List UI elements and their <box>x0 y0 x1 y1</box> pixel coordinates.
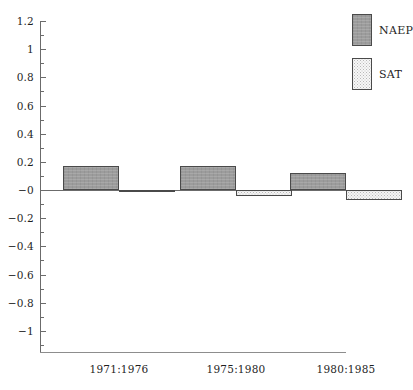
y-tick-label: −0.8 <box>0 298 34 309</box>
y-tick-label: 1 <box>0 44 34 55</box>
y-tick-minor <box>41 317 44 318</box>
y-tick-minor <box>41 232 44 233</box>
chart-legend: NAEP SAT <box>352 14 411 99</box>
y-tick-label: −1 <box>0 326 34 337</box>
y-tick-label: 0.8 <box>0 72 34 83</box>
y-tick-major <box>41 21 46 22</box>
legend-item-sat[interactable]: SAT <box>352 58 402 90</box>
y-tick-label: −0.2 <box>0 213 34 224</box>
y-tick-major <box>41 275 46 276</box>
y-tick-major <box>41 190 46 191</box>
x-axis-line <box>40 352 346 353</box>
zero-baseline <box>41 190 346 191</box>
y-tick-minor <box>41 204 44 205</box>
y-tick-minor <box>41 345 44 346</box>
y-tick-label: −0.4 <box>0 241 34 252</box>
legend-label-naep: NAEP <box>379 25 413 36</box>
y-tick-label: 0.4 <box>0 129 34 140</box>
legend-swatch-naep-icon <box>352 14 372 46</box>
y-tick-major <box>41 246 46 247</box>
bar-sat-1980-1985 <box>346 190 402 200</box>
y-tick-minor <box>41 260 44 261</box>
bar-sat-1975-1980 <box>236 190 292 196</box>
y-tick-minor <box>41 176 44 177</box>
legend-item-naep[interactable]: NAEP <box>352 14 413 46</box>
legend-swatch-sat-icon <box>352 58 372 90</box>
y-tick-label: −0.6 <box>0 270 34 281</box>
x-tick-label-1975-1980: 1975:1980 <box>186 364 286 375</box>
y-tick-minor <box>41 63 44 64</box>
y-tick-label: 0.2 <box>0 157 34 168</box>
x-tick-label-1980-1985: 1980:1985 <box>296 364 396 375</box>
y-tick-major <box>41 134 46 135</box>
y-tick-label: 0.6 <box>0 101 34 112</box>
y-tick-minor <box>41 148 44 149</box>
y-tick-major <box>41 77 46 78</box>
bar-naep-1971-1976 <box>63 166 119 190</box>
y-tick-major <box>41 162 46 163</box>
y-tick-label: −0 <box>0 185 34 196</box>
legend-label-sat: SAT <box>379 69 402 80</box>
y-tick-major <box>41 49 46 50</box>
y-tick-minor <box>41 35 44 36</box>
y-tick-major <box>41 218 46 219</box>
bar-naep-1975-1980 <box>180 166 236 190</box>
y-tick-label: 1.2 <box>0 16 34 27</box>
x-tick-label-1971-1976: 1971:1976 <box>69 364 169 375</box>
y-tick-minor <box>41 91 44 92</box>
y-tick-minor <box>41 289 44 290</box>
y-tick-major <box>41 303 46 304</box>
y-tick-major <box>41 106 46 107</box>
y-tick-major <box>41 331 46 332</box>
y-tick-minor <box>41 120 44 121</box>
bar-sat-1971-1976 <box>119 190 175 192</box>
bar-naep-1980-1985 <box>290 173 346 190</box>
